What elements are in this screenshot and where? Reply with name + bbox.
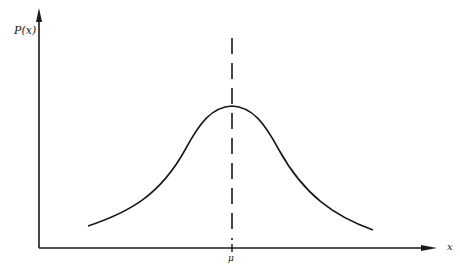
distribution-figure [0, 0, 460, 275]
y-axis-label: P(x) [14, 24, 36, 37]
mean-label: μ [228, 253, 234, 263]
x-axis-label: x [447, 241, 453, 252]
y-axis-arrow-icon [36, 8, 42, 22]
x-axis-arrow-icon [421, 245, 437, 251]
bell-curve [88, 106, 373, 230]
